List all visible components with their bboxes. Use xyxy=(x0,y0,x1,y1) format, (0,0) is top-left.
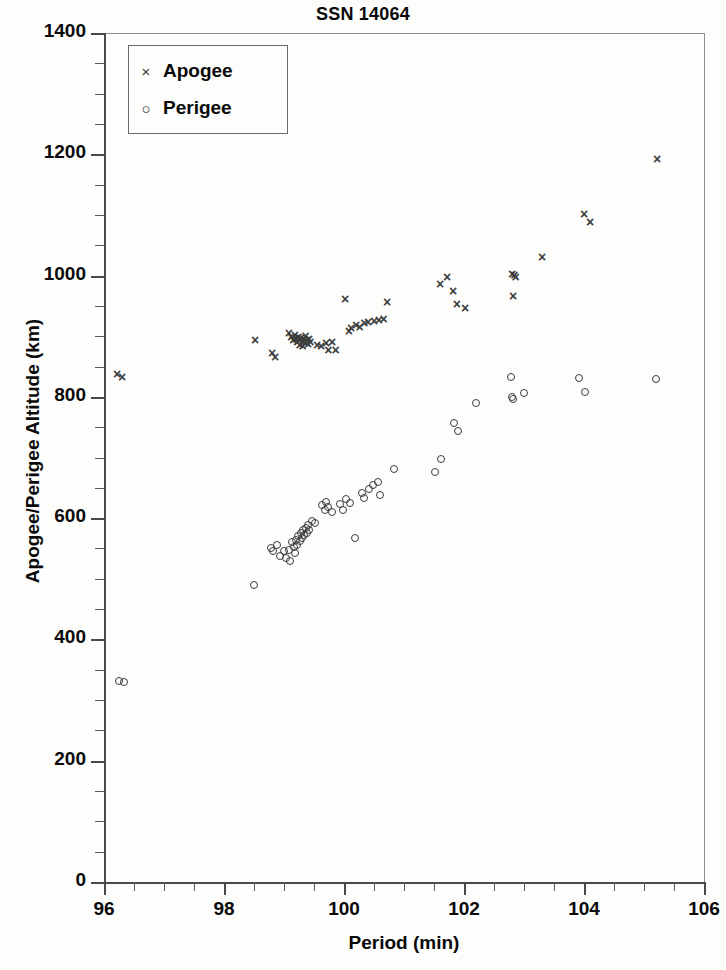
y-tick-minor xyxy=(95,488,104,489)
perigee-data-point xyxy=(300,531,308,539)
perigee-data-point xyxy=(507,373,515,381)
perigee-data-point xyxy=(267,544,275,552)
perigee-data-point xyxy=(250,581,258,589)
apogee-data-point: × xyxy=(292,332,300,346)
x-tick-minor xyxy=(164,882,165,891)
perigee-data-point xyxy=(308,517,316,525)
x-tick-minor xyxy=(554,882,555,891)
perigee-data-point xyxy=(294,532,302,540)
y-tick-minor xyxy=(95,63,104,64)
plot-data-area: ××××××××××××××××××××××××××××××××××××××××… xyxy=(104,33,704,882)
apogee-data-point: × xyxy=(303,333,311,347)
y-axis-title: Apogee/Perigee Altitude (km) xyxy=(22,241,44,661)
x-tick-minor xyxy=(404,882,405,891)
x-tick-label: 98 xyxy=(189,898,259,920)
apogee-data-point: × xyxy=(301,336,309,350)
apogee-data-point: × xyxy=(296,338,304,352)
apogee-data-point: × xyxy=(328,335,336,349)
perigee-data-point xyxy=(450,419,458,427)
x-tick-minor xyxy=(524,882,525,891)
x-tick-label: 106 xyxy=(669,898,726,920)
apogee-data-point: × xyxy=(653,152,661,166)
perigee-data-point xyxy=(360,494,368,502)
scatter-plot-figure: SSN 14064 0200400600800100012001400 9698… xyxy=(0,0,726,970)
apogee-data-point: × xyxy=(352,318,360,332)
perigee-data-point xyxy=(311,519,319,527)
perigee-data-point xyxy=(288,538,296,546)
y-tick-label: 0 xyxy=(0,869,86,891)
apogee-data-point: × xyxy=(580,207,588,221)
perigee-data-point xyxy=(286,557,294,565)
perigee-data-point xyxy=(339,506,347,514)
x-tick-minor xyxy=(494,882,495,891)
perigee-data-point xyxy=(305,526,313,534)
x-tick-major xyxy=(584,882,586,895)
apogee-data-point: × xyxy=(298,335,306,349)
legend-label-apogee: Apogee xyxy=(163,60,233,82)
perigee-data-point xyxy=(581,388,589,396)
apogee-data-point: × xyxy=(443,270,451,284)
y-tick-minor xyxy=(95,336,104,337)
perigee-data-point xyxy=(296,537,304,545)
perigee-data-point xyxy=(290,543,298,551)
apogee-data-point: × xyxy=(304,337,312,351)
apogee-data-point: × xyxy=(118,370,126,384)
apogee-data-point: × xyxy=(324,343,332,357)
apogee-data-point: × xyxy=(287,330,295,344)
apogee-data-point: × xyxy=(347,321,355,335)
apogee-marker-icon: × xyxy=(129,64,163,79)
x-tick-major xyxy=(704,882,706,895)
y-tick-minor xyxy=(95,852,104,853)
perigee-data-point xyxy=(374,478,382,486)
perigee-data-point xyxy=(285,546,293,554)
apogee-data-point: × xyxy=(332,343,340,357)
perigee-data-point xyxy=(472,399,480,407)
y-tick-major xyxy=(91,276,104,278)
apogee-data-point: × xyxy=(383,295,391,309)
x-axis-title: Period (min) xyxy=(104,932,704,954)
apogee-data-point: × xyxy=(512,270,520,284)
x-tick-label: 100 xyxy=(309,898,379,920)
apogee-data-point: × xyxy=(302,329,310,343)
y-tick-major xyxy=(91,761,104,763)
apogee-data-point: × xyxy=(297,331,305,345)
perigee-data-point xyxy=(365,485,373,493)
perigee-data-point xyxy=(431,468,439,476)
apogee-data-point: × xyxy=(436,277,444,291)
apogee-data-point: × xyxy=(449,284,457,298)
x-tick-minor xyxy=(194,882,195,891)
x-tick-minor xyxy=(674,882,675,891)
perigee-data-point xyxy=(273,541,281,549)
x-tick-minor xyxy=(434,882,435,891)
apogee-data-point: × xyxy=(364,315,372,329)
legend-entry-apogee: × Apogee xyxy=(129,56,287,86)
perigee-data-point xyxy=(291,549,299,557)
y-tick-minor xyxy=(95,609,104,610)
x-tick-major xyxy=(464,882,466,895)
y-tick-label: 1400 xyxy=(0,20,86,42)
y-tick-major xyxy=(91,33,104,35)
x-tick-minor xyxy=(314,882,315,891)
perigee-data-point xyxy=(652,375,660,383)
perigee-data-point xyxy=(280,547,288,555)
y-tick-major xyxy=(91,639,104,641)
perigee-data-point xyxy=(509,395,517,403)
perigee-data-point xyxy=(336,500,344,508)
apogee-data-point: × xyxy=(305,332,313,346)
perigee-data-point xyxy=(302,524,310,532)
perigee-data-point xyxy=(454,427,462,435)
apogee-data-point: × xyxy=(510,268,518,282)
x-tick-major xyxy=(344,882,346,895)
perigee-data-point xyxy=(115,677,123,685)
y-tick-label: 200 xyxy=(0,748,86,770)
apogee-data-point: × xyxy=(538,250,546,264)
perigee-marker-icon: ○ xyxy=(129,101,163,116)
perigee-data-point xyxy=(318,501,326,509)
apogee-data-point: × xyxy=(453,297,461,311)
y-tick-minor xyxy=(95,548,104,549)
legend-entry-perigee: ○ Perigee xyxy=(129,93,287,123)
perigee-data-point xyxy=(304,521,312,529)
perigee-data-point xyxy=(520,389,528,397)
perigee-data-point xyxy=(321,506,329,514)
y-tick-major xyxy=(91,882,104,884)
